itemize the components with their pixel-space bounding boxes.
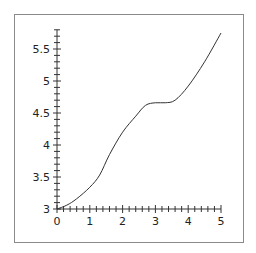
- data-line: [57, 33, 221, 209]
- line-chart: 01234533.544.555.5: [0, 0, 256, 253]
- axes: [57, 30, 221, 209]
- x-tick-label: 3: [152, 215, 159, 228]
- y-tick-label: 5: [43, 75, 50, 88]
- y-tick-label: 3.5: [33, 171, 51, 184]
- x-tick-label: 4: [185, 215, 192, 228]
- y-tick-label: 5.5: [33, 43, 51, 56]
- x-tick-label: 2: [119, 215, 126, 228]
- y-tick-label: 4: [43, 139, 50, 152]
- y-tick-label: 3: [43, 203, 50, 216]
- x-tick-label: 0: [54, 215, 61, 228]
- x-tick-label: 1: [86, 215, 93, 228]
- ticks: [53, 30, 221, 213]
- y-tick-label: 4.5: [33, 107, 51, 120]
- tick-labels: 01234533.544.555.5: [33, 43, 225, 228]
- x-tick-label: 5: [218, 215, 225, 228]
